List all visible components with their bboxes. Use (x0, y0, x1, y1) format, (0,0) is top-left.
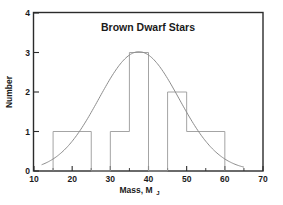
x-tick-label: 40 (144, 174, 154, 184)
x-tick-label: 60 (220, 174, 230, 184)
y-tick-label: 3 (25, 48, 30, 58)
x-tick-label: 70 (258, 174, 268, 184)
brown-dwarf-histogram: Brown Dwarf Stars Number Mass, M J 10203… (0, 0, 283, 205)
x-tick-label: 20 (67, 174, 77, 184)
y-tick-label: 4 (25, 8, 30, 18)
y-tick-label: 1 (25, 127, 30, 137)
y-axis-title: Number (4, 75, 14, 108)
x-axis-title-subscript: J (156, 190, 159, 196)
x-axis-title-text: Mass, M (119, 185, 152, 195)
x-tick-label: 30 (106, 174, 116, 184)
chart-figure: Brown Dwarf Stars Number Mass, M J 10203… (0, 0, 283, 205)
y-tick-label: 0 (25, 166, 30, 176)
x-tick-label: 50 (182, 174, 192, 184)
x-tick-label: 10 (29, 174, 39, 184)
y-tick-label: 2 (25, 87, 30, 97)
chart-title: Brown Dwarf Stars (101, 21, 195, 33)
